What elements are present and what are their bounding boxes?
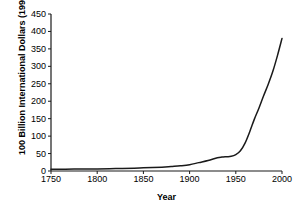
- x-axis-title: Year: [51, 192, 282, 202]
- plot-area: [0, 0, 300, 212]
- axis-lines: [51, 14, 282, 171]
- chart-container: 100 Billion International Dollars (1990)…: [0, 0, 300, 212]
- data-series-group: [51, 38, 282, 169]
- data-line: [51, 38, 282, 169]
